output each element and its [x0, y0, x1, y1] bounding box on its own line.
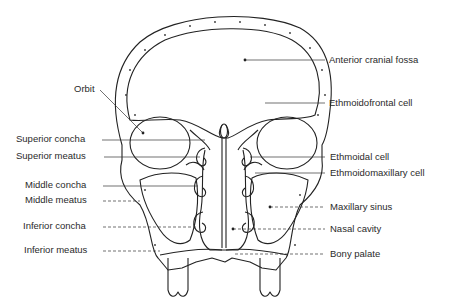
label-inferior-meatus: Inferior meatus	[24, 244, 87, 255]
nasal-cavity-left-wall	[199, 150, 222, 250]
nasal-septum	[219, 125, 228, 248]
label-bony-palate: Bony palate	[330, 248, 380, 259]
label-ethmoidal-cell: Ethmoidal cell	[330, 151, 389, 162]
label-maxillary-sinus: Maxillary sinus	[330, 201, 392, 212]
skull-outer-contour	[115, 16, 331, 270]
bony-palate	[160, 249, 288, 255]
label-anterior-cranial-fossa: Anterior cranial fossa	[329, 54, 418, 65]
maxillary-sinus-left	[140, 173, 198, 244]
label-inferior-concha: Inferior concha	[23, 220, 86, 231]
nasal-cavity-right-wall	[226, 150, 249, 250]
label-nasal-cavity: Nasal cavity	[330, 223, 381, 234]
label-superior-concha: Superior concha	[16, 133, 85, 144]
label-superior-meatus: Superior meatus	[16, 150, 86, 161]
label-ethmoidofrontal-cell: Ethmoidofrontal cell	[329, 97, 412, 108]
maxillary-sinus-right	[250, 173, 308, 244]
label-middle-meatus: Middle meatus	[25, 194, 87, 205]
tooth-left	[168, 258, 188, 296]
crista-galli	[221, 124, 228, 138]
label-middle-concha: Middle concha	[25, 179, 86, 190]
label-orbit: Orbit	[74, 83, 95, 94]
ethmoidal-cells-left	[186, 130, 210, 170]
label-ethmoidomaxillary-cell: Ethmoidomaxillary cell	[330, 167, 425, 178]
anterior-cranial-fossa-contour	[127, 29, 319, 138]
orbit-right	[257, 117, 317, 169]
tooth-right	[260, 258, 280, 296]
orbit-left	[130, 117, 190, 169]
